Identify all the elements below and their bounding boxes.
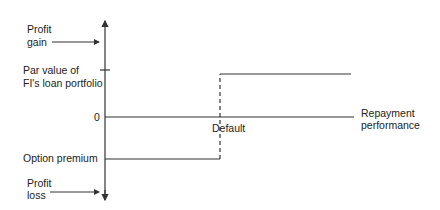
payoff-diagram xyxy=(0,0,440,210)
profit-loss-label-line2: loss xyxy=(27,189,46,201)
profit-gain-label-line1: Profit xyxy=(27,23,52,35)
profit-gain-label-line2: gain xyxy=(27,36,47,48)
par-value-label-line2: FI's loan portfolio xyxy=(23,77,103,89)
repayment-label-line1: Repayment xyxy=(361,107,415,119)
option-premium-label: Option premium xyxy=(23,152,98,164)
profit-loss-label-line1: Profit xyxy=(27,177,52,189)
default-label: Default xyxy=(212,122,245,134)
zero-label: 0 xyxy=(94,111,100,123)
repayment-label-line2: performance xyxy=(361,119,420,131)
par-value-label-line1: Par value of xyxy=(23,64,79,76)
